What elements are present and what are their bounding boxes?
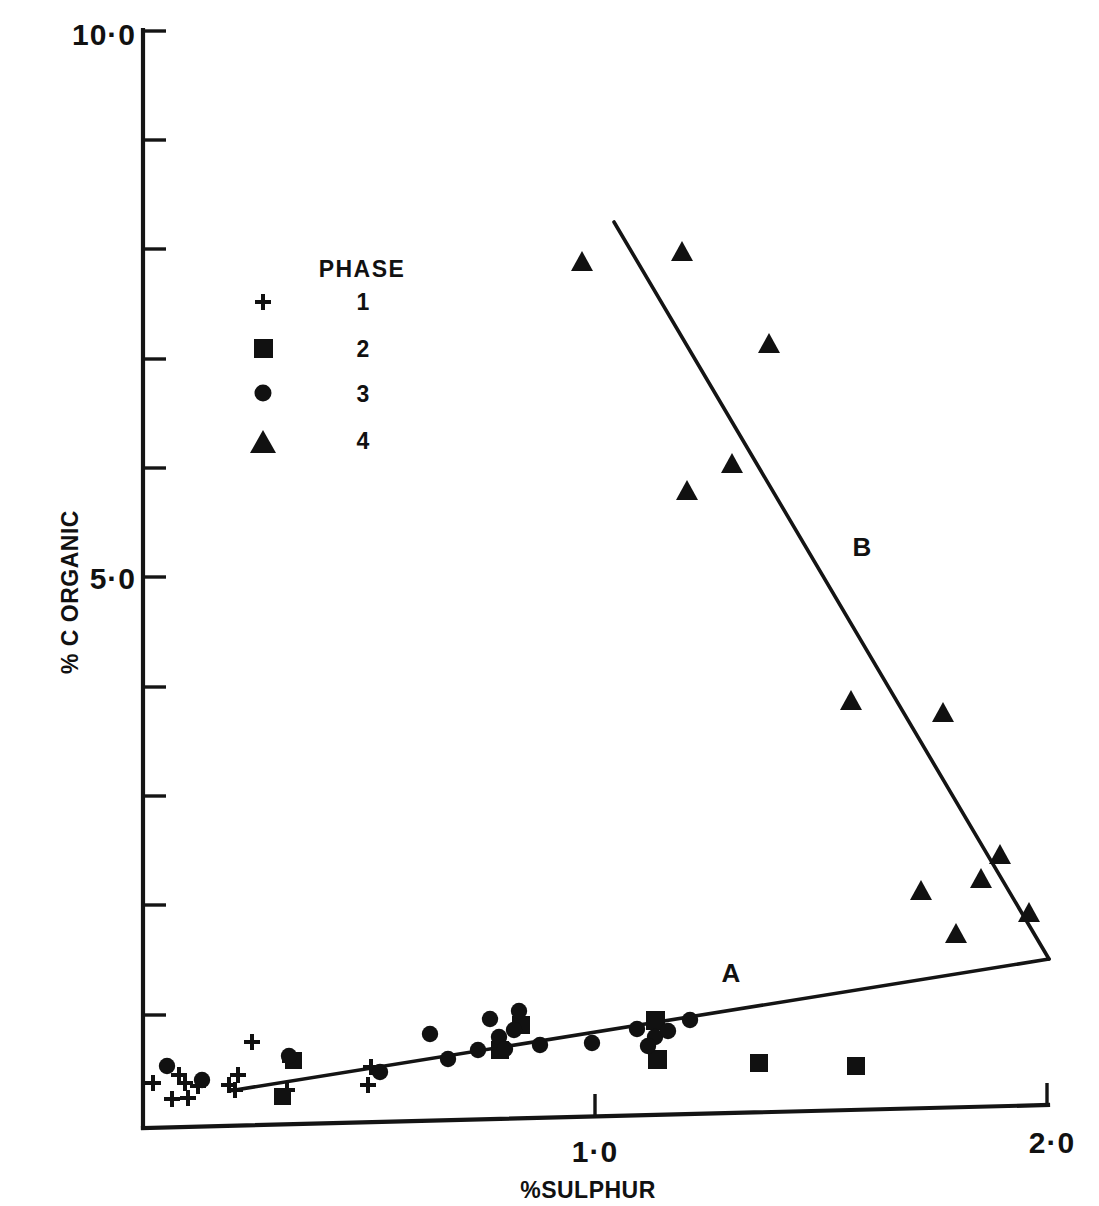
- marker-circle: [159, 1058, 175, 1074]
- y-axis-title: % C ORGANIC: [57, 510, 83, 674]
- legend-label-phase-4: 4: [357, 428, 370, 454]
- marker-plus: [230, 1067, 246, 1083]
- trendlines-group: [229, 222, 1049, 1091]
- marker-triangle: [758, 333, 780, 353]
- marker-circle: [640, 1038, 656, 1054]
- legend-row-phase-3: 3: [255, 381, 370, 407]
- x-tick-label-1: 1·0: [572, 1135, 618, 1168]
- legend-circle-icon: [255, 385, 272, 402]
- legend-label-phase-3: 3: [357, 381, 370, 407]
- marker-triangle: [910, 880, 932, 900]
- marker-circle: [660, 1023, 676, 1039]
- series-phase-1-markers: [145, 1034, 379, 1107]
- legend-row-phase-2: 2: [254, 336, 369, 362]
- legend-row-phase-1: 1: [255, 289, 370, 315]
- series-phase-2-markers: [274, 1011, 865, 1105]
- legend-label-phase-2: 2: [357, 336, 370, 362]
- legend-row-phase-4: 4: [250, 428, 370, 454]
- marker-plus: [164, 1091, 180, 1107]
- series-phase-4-markers: [571, 241, 1040, 943]
- marker-circle: [511, 1003, 527, 1019]
- legend-label-phase-1: 1: [357, 289, 370, 315]
- marker-circle: [422, 1026, 438, 1042]
- marker-plus: [145, 1075, 161, 1091]
- marker-circle: [532, 1037, 548, 1053]
- x-tick-label-2: 2·0: [1029, 1126, 1075, 1159]
- marker-triangle: [671, 241, 693, 261]
- marker-triangle: [989, 844, 1011, 864]
- marker-circle: [440, 1051, 456, 1067]
- marker-triangle: [840, 690, 862, 710]
- axes-group: [143, 30, 1048, 1128]
- marker-triangle: [676, 480, 698, 500]
- legend: PHASE 1 2 3 4: [250, 256, 405, 454]
- marker-plus: [180, 1090, 196, 1106]
- marker-triangle: [571, 251, 593, 271]
- y-tick-label-5: 5·0: [90, 562, 136, 595]
- marker-circle: [497, 1041, 513, 1057]
- marker-plus: [360, 1077, 376, 1093]
- y-tick-label-10: 10·0: [72, 18, 136, 51]
- marker-square: [274, 1088, 291, 1105]
- marker-square: [847, 1057, 865, 1075]
- trendline-b: [614, 222, 1049, 959]
- scatter-plot-figure: 10·0 5·0 1·0 2·0 % C ORGANIC %SULPHUR A …: [0, 0, 1099, 1206]
- legend-title: PHASE: [319, 256, 406, 282]
- marker-triangle: [945, 923, 967, 943]
- marker-triangle: [970, 868, 992, 888]
- marker-triangle: [721, 453, 743, 473]
- plot-canvas: 10·0 5·0 1·0 2·0 % C ORGANIC %SULPHUR A …: [0, 0, 1099, 1206]
- legend-triangle-icon: [250, 430, 276, 453]
- marker-circle: [194, 1072, 210, 1088]
- marker-circle: [281, 1048, 297, 1064]
- marker-plus: [244, 1034, 260, 1050]
- trendline-a-label: A: [722, 958, 741, 988]
- marker-circle: [682, 1012, 698, 1028]
- marker-square: [750, 1054, 768, 1072]
- marker-circle: [629, 1021, 645, 1037]
- marker-circle: [506, 1022, 522, 1038]
- marker-circle: [584, 1035, 600, 1051]
- marker-circle: [482, 1011, 498, 1027]
- x-axis-title: %SULPHUR: [520, 1177, 656, 1203]
- marker-circle: [372, 1064, 388, 1080]
- legend-plus-icon: [255, 294, 271, 310]
- marker-triangle: [932, 702, 954, 722]
- marker-circle: [470, 1042, 486, 1058]
- legend-square-icon: [254, 339, 273, 358]
- trendline-b-label: B: [853, 532, 872, 562]
